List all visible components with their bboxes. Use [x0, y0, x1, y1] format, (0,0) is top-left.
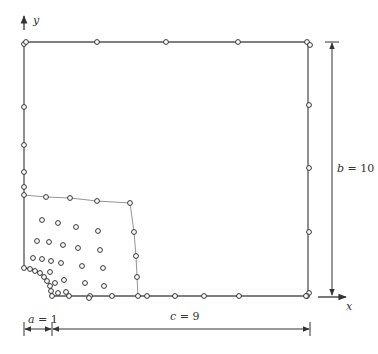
mesh-node: [98, 248, 103, 253]
mesh-node: [56, 221, 61, 226]
mesh-node: [308, 43, 313, 48]
mesh-node: [40, 257, 45, 262]
mesh-node: [35, 239, 40, 244]
mesh-node: [24, 40, 29, 45]
mesh-node: [45, 279, 50, 284]
mesh-node: [48, 270, 53, 275]
mesh-node: [101, 266, 106, 271]
mesh-node: [48, 284, 53, 289]
mesh-node: [49, 289, 54, 294]
mesh-node: [202, 294, 207, 299]
mesh-node: [40, 218, 45, 223]
mesh-node: [237, 294, 242, 299]
mesh-node: [56, 291, 61, 296]
mesh-node: [31, 256, 36, 261]
mesh-node: [50, 294, 55, 299]
mesh-nodes: [22, 40, 313, 301]
mesh-node: [307, 103, 312, 108]
mesh-node: [110, 294, 115, 299]
mesh-node: [64, 290, 69, 295]
mesh-node: [132, 230, 137, 235]
y-axis: y: [24, 14, 40, 30]
mesh-node: [22, 143, 27, 148]
mesh-node: [145, 294, 150, 299]
mesh-node: [136, 294, 141, 299]
mesh-node: [102, 284, 107, 289]
mesh-node: [22, 185, 27, 190]
mesh-node: [38, 271, 43, 276]
mesh-node: [135, 275, 140, 280]
mesh-node: [128, 201, 133, 206]
mesh-node: [61, 243, 66, 248]
mesh-node: [76, 246, 81, 251]
mesh-node: [95, 199, 100, 204]
mesh-node: [22, 170, 27, 175]
mesh-node: [95, 40, 100, 45]
dimension-c-label: c = 9: [170, 310, 199, 323]
mesh-node: [307, 166, 312, 171]
inner-mesh-boundary: [24, 195, 138, 296]
mesh-node: [307, 230, 312, 235]
x-axis-label: x: [346, 300, 353, 313]
mesh-node: [304, 294, 309, 299]
mesh-node: [87, 296, 92, 301]
mesh-node: [44, 195, 49, 200]
dimension-a: a = 1: [24, 313, 58, 336]
mesh-node: [22, 193, 27, 198]
mesh-node: [173, 294, 178, 299]
mesh-node: [68, 196, 73, 201]
mesh-node: [53, 281, 58, 286]
mesh-node: [134, 254, 139, 259]
mesh-node: [83, 281, 88, 286]
dimension-b: b = 10: [325, 42, 374, 295]
mesh-node: [164, 40, 169, 45]
mesh-node: [62, 278, 67, 283]
x-axis: x: [318, 297, 353, 313]
plate-outline: [24, 42, 308, 296]
mesh-node: [59, 261, 64, 266]
dimension-b-label: b = 10: [337, 162, 374, 175]
mesh-node: [74, 225, 79, 230]
mesh-node: [236, 40, 241, 45]
mesh-node: [22, 266, 27, 271]
mesh-node: [28, 267, 33, 272]
diagram-canvas: y x b = 10 a = 1: [0, 0, 378, 354]
dimension-c: c = 9: [53, 310, 310, 336]
dimension-a-label: a = 1: [28, 313, 58, 326]
mesh-node: [33, 269, 38, 274]
y-axis-label: y: [32, 14, 40, 27]
mesh-node: [80, 264, 85, 269]
mesh-node: [49, 259, 54, 264]
mesh-node: [96, 229, 101, 234]
mesh-node: [22, 105, 27, 110]
mesh-node: [47, 240, 52, 245]
